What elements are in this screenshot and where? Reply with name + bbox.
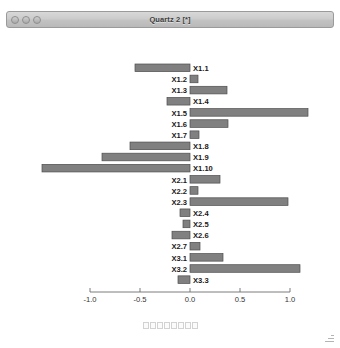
axis-tick-label: 0.0 <box>185 295 196 304</box>
tool-4-icon[interactable] <box>164 322 170 329</box>
tool-2-icon[interactable] <box>150 322 156 329</box>
bar-chart: X1.1X1.2X1.3X1.4X1.5X1.6X1.7X1.8X1.9X1.1… <box>0 34 340 314</box>
bar <box>183 220 190 228</box>
bar-label: X1.7 <box>171 131 187 140</box>
x-axis: -1.0-0.50.00.51.0 <box>83 288 295 304</box>
window-title: Quartz 2 [*] <box>7 15 333 24</box>
close-button[interactable] <box>11 16 19 24</box>
bottom-toolbar[interactable] <box>0 318 340 332</box>
bar <box>190 176 220 184</box>
bar <box>172 231 190 239</box>
bar-label: X3.1 <box>171 254 187 263</box>
axis-tick-label: -0.5 <box>133 295 146 304</box>
bar-label: X1.10 <box>193 164 213 173</box>
bar-label: X2.6 <box>193 231 209 240</box>
bar-label: X3.3 <box>193 276 209 285</box>
bar <box>190 109 308 117</box>
bar <box>180 209 190 217</box>
bar-label: X1.5 <box>171 109 187 118</box>
resize-grip-icon[interactable] <box>324 332 334 342</box>
bar <box>135 64 190 72</box>
bar-label: X1.3 <box>171 86 187 95</box>
bar-label: X2.4 <box>193 209 209 218</box>
bar <box>190 242 200 250</box>
bar-label: X2.7 <box>171 242 187 251</box>
bar <box>190 75 198 83</box>
bar-label: X2.3 <box>171 198 187 207</box>
tool-8-icon[interactable] <box>192 322 198 329</box>
bar-label: X1.6 <box>171 120 187 129</box>
bar-label: X2.5 <box>193 220 209 229</box>
tool-6-icon[interactable] <box>178 322 184 329</box>
bar <box>102 153 190 161</box>
bar <box>130 142 190 150</box>
tool-1-icon[interactable] <box>143 322 149 329</box>
bar-label: X1.4 <box>193 97 209 106</box>
zoom-button[interactable] <box>33 16 41 24</box>
bar <box>190 187 198 195</box>
bar <box>167 97 190 105</box>
window-titlebar[interactable]: Quartz 2 [*] <box>6 11 334 28</box>
minimize-button[interactable] <box>22 16 30 24</box>
window-controls <box>11 16 41 24</box>
bar <box>42 164 190 172</box>
bar <box>190 265 300 273</box>
bar-label: X2.1 <box>171 176 187 185</box>
bar <box>190 198 288 206</box>
bar-label: X3.2 <box>171 265 187 274</box>
tool-7-icon[interactable] <box>185 322 191 329</box>
axis-tick-label: 0.5 <box>235 295 246 304</box>
bar <box>190 120 228 128</box>
bar-label: X1.1 <box>193 64 209 73</box>
axis-tick-label: -1.0 <box>83 295 96 304</box>
bar-label: X1.2 <box>171 75 187 84</box>
tool-3-icon[interactable] <box>157 322 163 329</box>
bar <box>190 131 199 139</box>
bar-label: X1.9 <box>193 153 209 162</box>
plot-area: X1.1X1.2X1.3X1.4X1.5X1.6X1.7X1.8X1.9X1.1… <box>0 34 340 314</box>
bar-label: X1.8 <box>193 142 209 151</box>
axis-tick-label: 1.0 <box>285 295 296 304</box>
application-window: Quartz 2 [*] X1.1X1.2X1.3X1.4X1.5X1.6X1.… <box>0 0 340 348</box>
bar <box>190 86 227 94</box>
tool-5-icon[interactable] <box>171 322 177 329</box>
bar-label: X2.2 <box>171 187 187 196</box>
bar <box>190 254 223 262</box>
bar <box>178 276 190 284</box>
